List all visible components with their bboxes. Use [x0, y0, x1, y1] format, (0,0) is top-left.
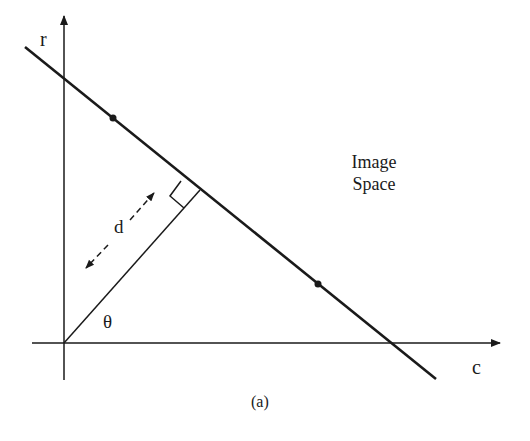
image-space-line-2: Space: [336, 173, 412, 195]
line-point-1: [110, 115, 117, 122]
angle-label: θ: [103, 311, 112, 333]
image-space-line-1: Image: [336, 151, 412, 173]
right-angle-marker: [170, 181, 184, 208]
hough-diagram: [0, 0, 530, 441]
image-space-label: Image Space: [336, 151, 412, 195]
figure-caption: (a): [251, 393, 269, 411]
line-point-2: [315, 281, 322, 288]
c-axis-label: c: [472, 356, 481, 379]
d-arrow-lower: [86, 245, 108, 268]
distance-label: d: [114, 216, 124, 238]
image-line: [25, 47, 436, 379]
normal-segment: [64, 190, 200, 343]
d-arrow-upper: [130, 193, 154, 220]
r-axis-label: r: [40, 28, 47, 51]
